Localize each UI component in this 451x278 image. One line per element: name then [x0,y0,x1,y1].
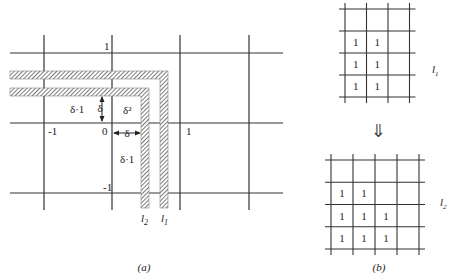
caption-a: (a) [138,261,151,274]
label-delta-horizontal: δ [124,127,129,139]
grid-cell-value: 1 [383,210,389,222]
figure-canvas: 1 -1 0 1 -1 δ·1 δ δ² δ δ·1 l2 l1 (a) 111… [0,0,451,278]
label-bottom-grid-l2: l2 [440,196,447,211]
grid-cell-value: 1 [353,58,359,70]
label-delta-vertical: δ [97,102,102,114]
grid-cell-value: 1 [353,36,359,48]
caption-b: (b) [373,261,386,274]
grid-cell-value: 1 [375,80,381,92]
figure-b: 111111 l1 ⇓ 11111111 l2 (b) [325,3,447,274]
label-x-pos-1: 1 [186,125,192,137]
label-x-neg-1: -1 [48,125,57,137]
label-y-neg-1: -1 [103,181,112,193]
label-origin-0: 0 [102,125,108,137]
grid-cell-value: 1 [383,232,389,244]
label-top-grid-l1: l1 [432,63,439,78]
figure-a: 1 -1 0 1 -1 δ·1 δ δ² δ δ·1 l2 l1 (a) [10,35,283,274]
label-delta-squared: δ² [123,104,132,116]
label-delta-1-left: δ·1 [70,103,84,115]
down-arrow-icon: ⇓ [370,120,385,141]
grid-cell-value: 1 [339,232,345,244]
label-y-pos-1: 1 [104,40,110,52]
grid-cell-value: 1 [361,210,367,222]
label-l1: l1 [161,212,168,227]
grid-cell-value: 1 [361,187,367,199]
grid-cell-value: 1 [375,58,381,70]
bottom-grid: 11111111 [325,154,425,255]
top-grid: 111111 [339,3,416,103]
grid-cell-value: 1 [353,80,359,92]
grid-cell-value: 1 [361,232,367,244]
grid-cell-value: 1 [339,187,345,199]
grid-cell-value: 1 [375,36,381,48]
label-l2: l2 [141,212,148,227]
label-delta-1-bottom: δ·1 [120,153,134,165]
grid-cell-value: 1 [339,210,345,222]
